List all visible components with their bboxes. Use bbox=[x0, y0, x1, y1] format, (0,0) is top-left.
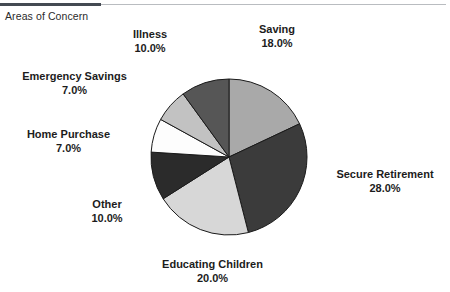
slice-label-educating-children-percent: 20.0% bbox=[140, 272, 285, 286]
slice-label-saving-name: Saving bbox=[222, 23, 332, 37]
slice-label-emergency-savings: Emergency Savings 7.0% bbox=[2, 70, 147, 97]
slice-label-secure-retirement-percent: 28.0% bbox=[320, 182, 450, 196]
slice-label-other-name: Other bbox=[72, 198, 142, 212]
slice-label-emergency-savings-name: Emergency Savings bbox=[2, 70, 147, 84]
slice-label-home-purchase-name: Home Purchase bbox=[6, 128, 131, 142]
slice-label-illness-percent: 10.0% bbox=[110, 42, 190, 56]
slice-label-secure-retirement: Secure Retirement 28.0% bbox=[320, 168, 450, 195]
slice-label-other: Other 10.0% bbox=[72, 198, 142, 225]
pie-chart-figure: Saving 18.0% Secure Retirement 28.0% Edu… bbox=[0, 0, 450, 292]
slice-label-saving-percent: 18.0% bbox=[222, 37, 332, 51]
slice-label-educating-children-name: Educating Children bbox=[140, 258, 285, 272]
pie-slice-group bbox=[151, 79, 307, 235]
slice-label-home-purchase-percent: 7.0% bbox=[6, 142, 131, 156]
slice-label-other-percent: 10.0% bbox=[72, 212, 142, 226]
slice-label-educating-children: Educating Children 20.0% bbox=[140, 258, 285, 285]
slice-label-home-purchase: Home Purchase 7.0% bbox=[6, 128, 131, 155]
slice-label-illness-name: Illness bbox=[110, 28, 190, 42]
slice-label-saving: Saving 18.0% bbox=[222, 23, 332, 50]
slice-label-illness: Illness 10.0% bbox=[110, 28, 190, 55]
slice-label-emergency-savings-percent: 7.0% bbox=[2, 84, 147, 98]
slice-label-secure-retirement-name: Secure Retirement bbox=[320, 168, 450, 182]
